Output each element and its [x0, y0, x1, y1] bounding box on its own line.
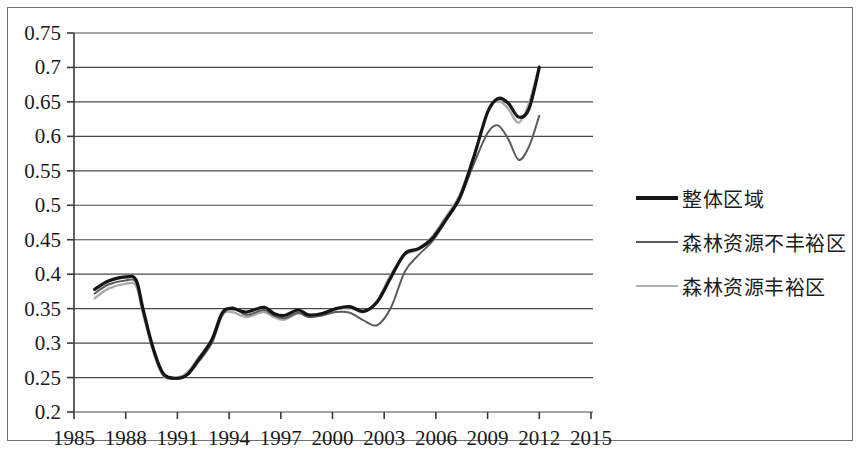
legend-color-swatch [636, 285, 678, 287]
y-tick-label: 0.75 [0, 21, 61, 46]
y-tick-label: 0.6 [0, 124, 61, 149]
legend-item: 森林资源丰裕区 [636, 264, 856, 308]
chart-legend: 整体区域森林资源不丰裕区森林资源丰裕区 [636, 176, 856, 308]
legend-item-label: 森林资源不丰裕区 [682, 228, 846, 257]
x-tick-label: 2000 [312, 426, 354, 451]
y-tick-label: 0.35 [0, 296, 61, 321]
x-tick-label: 1991 [156, 426, 198, 451]
x-tick-label: 1997 [260, 426, 302, 451]
y-tick-label: 0.65 [0, 89, 61, 114]
data-series-group [95, 66, 540, 379]
legend-item-label: 整体区域 [682, 184, 764, 213]
y-tick-label: 0.55 [0, 158, 61, 183]
x-tick-label: 2012 [518, 426, 560, 451]
y-tick-label: 0.2 [0, 400, 61, 425]
x-axis-ticks [74, 412, 591, 419]
legend-item-label: 森林资源丰裕区 [682, 272, 826, 301]
y-tick-label: 0.45 [0, 227, 61, 252]
x-tick-label: 2006 [415, 426, 457, 451]
gridlines-group [74, 33, 593, 412]
x-tick-label: 2015 [570, 426, 612, 451]
y-tick-label: 0.3 [0, 331, 61, 356]
y-axis-ticks [67, 33, 74, 412]
x-tick-label: 1985 [53, 426, 95, 451]
series-line [95, 67, 540, 378]
y-tick-label: 0.7 [0, 55, 61, 80]
series-line [95, 116, 540, 379]
legend-item: 整体区域 [636, 176, 856, 220]
legend-color-swatch [636, 196, 678, 200]
y-tick-label: 0.4 [0, 262, 61, 287]
x-tick-label: 1988 [105, 426, 147, 451]
x-tick-label: 2003 [363, 426, 405, 451]
y-tick-label: 0.25 [0, 365, 61, 390]
series-line [95, 66, 540, 379]
y-tick-label: 0.5 [0, 193, 61, 218]
legend-color-swatch [636, 241, 678, 243]
x-tick-label: 1994 [208, 426, 250, 451]
x-tick-label: 2009 [467, 426, 509, 451]
legend-item: 森林资源不丰裕区 [636, 220, 856, 264]
